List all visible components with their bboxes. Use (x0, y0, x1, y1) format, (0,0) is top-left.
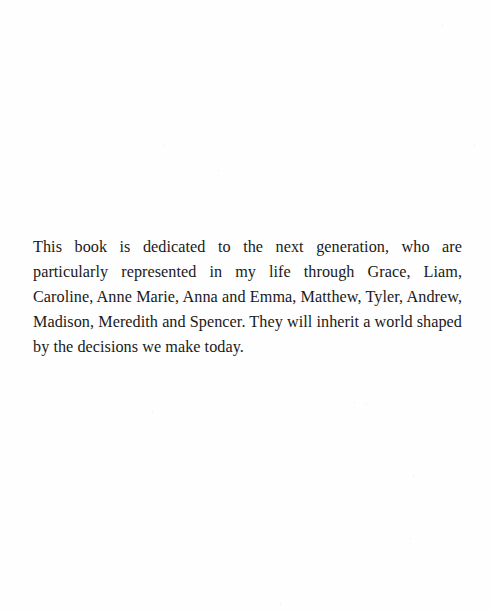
dedication-paragraph: This book is dedicated to the next gener… (33, 235, 462, 360)
scan-speck (474, 145, 475, 146)
scan-speck (152, 412, 153, 413)
scan-speck (163, 145, 164, 146)
scan-speck (410, 538, 411, 539)
scan-speck (354, 402, 355, 403)
scan-speck (413, 476, 414, 477)
scan-speck (280, 603, 281, 604)
scan-speck (442, 25, 443, 26)
scan-speck (218, 170, 219, 171)
scan-speck (366, 404, 367, 405)
book-page: This book is dedicated to the next gener… (0, 0, 491, 611)
